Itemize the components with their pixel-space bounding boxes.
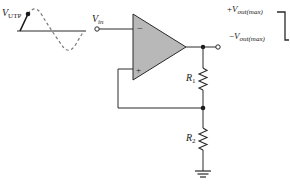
r1-zigzag — [199, 68, 207, 90]
r2-label-sub: 2 — [192, 137, 196, 145]
r1-label-sub: 1 — [192, 77, 196, 85]
vout-low-sub: out(max) — [240, 35, 265, 43]
vout-max-low-label: −Vout(max) — [229, 32, 265, 43]
input-wiring — [95, 27, 133, 31]
vout-high-sub: out(max) — [238, 8, 263, 16]
utp-point-dot — [26, 12, 31, 17]
vutp-label: VUTP — [2, 8, 21, 20]
vout-max-high-label: +Vout(max) — [227, 5, 263, 16]
circuit-svg: − + — [0, 0, 290, 186]
r1-label: R1 — [186, 73, 196, 85]
vin-label-sub: in — [98, 18, 103, 26]
vin-terminal — [95, 27, 99, 31]
resistor-r2 — [199, 108, 207, 171]
opamp: − + — [133, 14, 186, 80]
noninverting-symbol: + — [136, 65, 141, 75]
vutp-label-sub: UTP — [8, 12, 21, 20]
resistor-r1 — [199, 47, 207, 108]
output-waveform — [277, 12, 289, 40]
input-waveform — [17, 9, 86, 50]
output-terminal — [216, 45, 220, 49]
vin-label: Vin — [92, 14, 104, 26]
r2-label: R2 — [186, 133, 196, 145]
schmitt-trigger-diagram: − + — [0, 0, 290, 186]
ground-symbol — [195, 171, 211, 177]
r2-zigzag — [199, 128, 207, 150]
inverting-symbol: − — [137, 23, 143, 34]
dashed-sine-wave — [28, 9, 84, 50]
output-square-edge — [277, 12, 289, 40]
